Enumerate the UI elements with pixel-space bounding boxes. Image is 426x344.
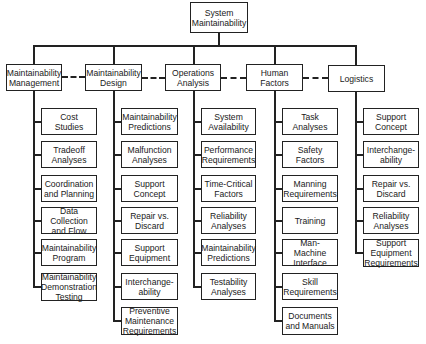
child-node: System Availability <box>201 108 256 135</box>
dashed-link <box>221 77 246 79</box>
branch <box>274 252 282 254</box>
branch <box>355 154 363 156</box>
branch <box>113 286 121 288</box>
child-node: Data Collection and Flow <box>41 207 97 234</box>
child-node: Malfunction Analyses <box>121 141 178 168</box>
branch <box>113 154 121 156</box>
branch <box>193 286 201 288</box>
child-node: Skill Requirements <box>282 273 338 300</box>
child-node: Tradeoff Analyses <box>41 141 97 168</box>
branch <box>274 320 282 322</box>
child-node: Support Concept <box>121 175 178 202</box>
branch <box>113 188 121 190</box>
category-logistics: Logistics <box>328 65 385 92</box>
child-node: Time-Critical Factors <box>201 175 256 202</box>
branch <box>113 320 121 322</box>
branch <box>355 252 363 254</box>
branch <box>113 121 121 123</box>
branch <box>355 188 363 190</box>
branch <box>33 252 41 254</box>
drop-line <box>274 45 276 65</box>
maintainability-tree-diagram: System Maintainability Maintainability M… <box>0 0 426 344</box>
child-node: Testability Analyses <box>201 273 256 300</box>
branch <box>274 286 282 288</box>
drop-line <box>113 45 115 65</box>
child-node: Interchange- ability <box>363 141 419 168</box>
branch <box>355 220 363 222</box>
child-node: Manning Requirements <box>282 175 338 202</box>
branch <box>33 188 41 190</box>
drop-line <box>355 45 357 65</box>
branch <box>33 286 41 288</box>
category-operations-analysis: Operations Analysis <box>165 64 221 91</box>
branch <box>193 252 201 254</box>
child-node: Reliability Analyses <box>201 207 256 234</box>
child-node: Training <box>282 207 338 234</box>
dashed-link <box>142 77 165 79</box>
child-node: Performance Requirements <box>201 141 256 168</box>
branch <box>193 154 201 156</box>
branch <box>33 220 41 222</box>
branch <box>193 188 201 190</box>
child-node: Preventive Maintenance Requirements <box>121 307 178 335</box>
child-node: Cost Studies <box>41 108 97 135</box>
category-human-factors: Human Factors <box>246 64 303 91</box>
category-maintainability-design: Maintainability Design <box>85 64 142 91</box>
branch <box>355 121 363 123</box>
dashed-link <box>62 76 85 78</box>
child-node: Safety Factors <box>282 141 338 168</box>
branch <box>113 252 121 254</box>
child-node: Maintainability Predictions <box>201 239 256 266</box>
root-node: System Maintainability <box>190 2 248 33</box>
category-maintainability-management: Maintainability Management <box>6 64 62 91</box>
child-node: Documents and Manuals <box>282 307 338 335</box>
branch <box>274 154 282 156</box>
branch <box>274 188 282 190</box>
root-connector <box>218 33 220 45</box>
top-bus-line <box>33 45 356 47</box>
branch <box>33 154 41 156</box>
child-node: Maintainability Predictions <box>121 108 178 135</box>
child-node: Reliability Analyses <box>363 207 419 234</box>
branch <box>274 121 282 123</box>
dashed-link <box>303 77 328 79</box>
child-node: Man-Machine Interface <box>282 239 338 266</box>
child-node: Support Equipment Requirements <box>363 239 419 267</box>
child-node: Interchange- ability <box>121 273 178 300</box>
child-node: Maintainability Program <box>41 239 97 266</box>
branch <box>193 121 201 123</box>
branch <box>193 220 201 222</box>
branch <box>274 220 282 222</box>
drop-line <box>193 45 195 65</box>
branch <box>113 220 121 222</box>
column-spine <box>355 92 357 253</box>
drop-line <box>33 45 35 65</box>
branch <box>33 121 41 123</box>
child-node: Support Concept <box>363 108 419 135</box>
child-node: Coordination and Planning <box>41 175 97 202</box>
child-node: Task Analyses <box>282 108 338 135</box>
child-node: Maintainability Demonstration Testing <box>41 273 97 301</box>
child-node: Support Equipment <box>121 239 178 266</box>
child-node: Repair vs. Discard <box>363 175 419 202</box>
child-node: Repair vs. Discard <box>121 207 178 234</box>
